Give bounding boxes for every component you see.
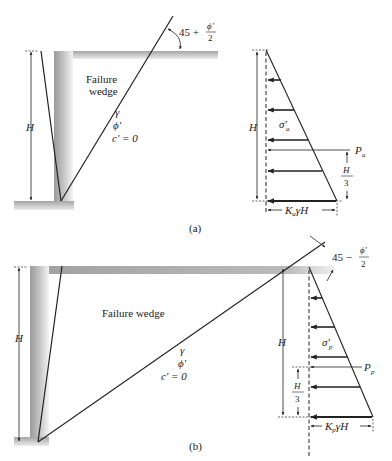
third-den-a: 3 [344, 178, 349, 188]
force-sub-b: p [370, 368, 375, 376]
soil-gamma-b: γ [180, 344, 185, 356]
base-label-a: KaγH [284, 204, 309, 218]
height-label-a: H [25, 121, 35, 133]
third-den-b: 3 [295, 394, 300, 404]
angle-arrow-top-b [310, 236, 325, 247]
pressure-envelope-b [309, 267, 373, 417]
pressure-envelope-a [266, 50, 337, 201]
height-label-b: H [14, 332, 24, 344]
stress-sub-a: a [286, 125, 290, 133]
panel-b-passive: H Failure wedge γ ϕ′ c′ = 0 45 − ϕ′ 2 H [14, 236, 375, 456]
earth-pressure-diagram: H 45 + ϕ′ 2 Failure wedge γ ϕ′ c′ = 0 H [0, 0, 392, 461]
caption-a: (a) [189, 222, 202, 235]
stress-sub-b: p [328, 343, 333, 351]
base-label-b: KpγH [324, 420, 349, 434]
ground-base-a [14, 201, 74, 210]
retaining-wall-a [54, 51, 73, 206]
angle-den-b: 2 [361, 259, 366, 269]
angle-num-b: ϕ′ [360, 245, 368, 255]
third-num-a: H [342, 165, 350, 175]
angle-label-a: 45 + [179, 26, 199, 38]
force-sub-a: a [362, 151, 366, 159]
height-label-b-pressure: H [277, 336, 287, 348]
failure-wedge-label-a-2: wedge [89, 85, 118, 97]
pressure-diagram-a: H P a σ′ a H 3 KaγH [248, 50, 366, 218]
pressure-diagram-b: H P p σ′ p H 3 KpγH [277, 267, 375, 456]
failure-wedge-label-a-1: Failure [86, 73, 117, 85]
angle-num-a: ϕ′ [207, 21, 215, 31]
angle-label-b: 45 − [332, 251, 352, 263]
soil-cohesion-b: c′ = 0 [161, 370, 187, 382]
height-label-a-pressure: H [248, 121, 258, 133]
soil-gamma-a: γ [115, 106, 120, 118]
force-label-a: P [354, 144, 362, 156]
soil-phi-b: ϕ′ [178, 357, 187, 369]
retaining-wall-b [30, 266, 49, 443]
failure-wedge-label-b: Failure wedge [102, 307, 165, 319]
angle-den-a: 2 [208, 33, 213, 43]
ground-surface-a [55, 51, 218, 59]
soil-phi-a: ϕ′ [113, 119, 122, 131]
third-num-b: H [293, 381, 301, 391]
panel-a-active: H 45 + ϕ′ 2 Failure wedge γ ϕ′ c′ = 0 H [14, 16, 366, 235]
caption-b: (b) [189, 440, 202, 453]
force-label-b: P [363, 361, 371, 373]
soil-cohesion-a: c′ = 0 [112, 132, 138, 144]
